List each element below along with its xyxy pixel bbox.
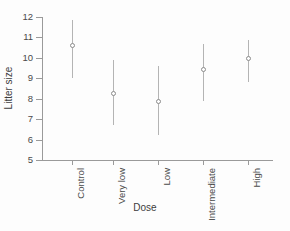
y-axis-tick-label: 11 (7, 32, 33, 42)
y-axis-tick (36, 17, 42, 18)
error-bar (248, 40, 249, 82)
y-axis-tick-label: 7 (7, 114, 33, 124)
x-axis-tick-label: Control (76, 168, 86, 199)
x-axis-tick (248, 160, 249, 165)
data-point-marker (111, 91, 116, 96)
data-point-marker (201, 67, 206, 72)
y-axis-tick-label: 6 (7, 135, 33, 145)
y-axis-tick (36, 119, 42, 120)
x-axis-tick (72, 160, 73, 165)
y-axis-tick (36, 140, 42, 141)
y-axis-tick-label: 10 (7, 53, 33, 63)
x-axis-title: Dose (0, 203, 290, 213)
y-axis-tick (36, 160, 42, 161)
data-point-marker (70, 43, 75, 48)
y-axis-title: Litter size (4, 67, 14, 110)
y-axis-line (42, 17, 43, 161)
y-axis-tick-label: 5 (7, 155, 33, 165)
y-axis-tick (36, 78, 42, 79)
data-point-marker (246, 56, 251, 61)
y-axis-tick (36, 58, 42, 59)
y-axis-tick-label: 12 (7, 12, 33, 22)
y-axis-tick (36, 37, 42, 38)
litter-size-dose-chart: 56789101112 ControlVery lowLowIntermedia… (0, 0, 290, 231)
x-axis-tick-label: High (252, 168, 262, 188)
x-axis-tick-label: Very low (117, 168, 127, 204)
x-axis-tick-label: Low (162, 168, 172, 185)
data-point-marker (156, 99, 161, 104)
y-axis-tick (36, 99, 42, 100)
x-axis-tick (113, 160, 114, 165)
x-axis-tick (203, 160, 204, 165)
x-axis-tick (158, 160, 159, 165)
error-bar (72, 20, 73, 78)
error-bar (203, 44, 204, 101)
